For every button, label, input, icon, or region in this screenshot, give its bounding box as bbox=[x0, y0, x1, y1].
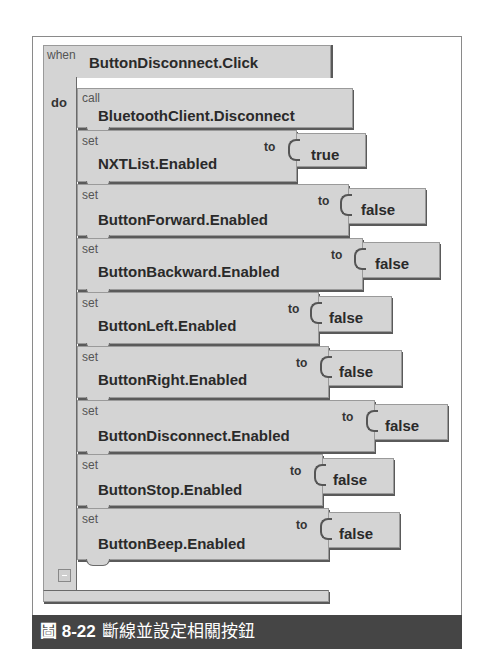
socket-plug-icon bbox=[340, 194, 352, 216]
to-label: to bbox=[331, 248, 342, 262]
when-label: when bbox=[47, 48, 76, 62]
call-block[interactable]: call BluetoothClient.Disconnect bbox=[77, 88, 353, 128]
value-block-false[interactable]: false bbox=[322, 458, 394, 494]
to-label: to bbox=[318, 194, 329, 208]
socket-plug-icon bbox=[314, 464, 326, 486]
call-method: BluetoothClient.Disconnect bbox=[98, 107, 295, 124]
set-label: set bbox=[82, 404, 98, 418]
event-block-header[interactable]: when ButtonDisconnect.Click bbox=[43, 45, 331, 78]
set-block-buttonbeep[interactable]: set ButtonBeep.Enabled to bbox=[77, 508, 329, 560]
value-text: false bbox=[361, 201, 395, 218]
figure-caption: 圖 8-22斷線並設定相關按鈕 bbox=[32, 615, 462, 649]
do-label: do bbox=[51, 95, 67, 110]
event-name: ButtonDisconnect.Click bbox=[89, 54, 258, 71]
to-label: to bbox=[290, 464, 301, 478]
property-name: ButtonBeep.Enabled bbox=[98, 535, 246, 552]
to-label: to bbox=[264, 140, 275, 154]
set-block-buttonforward[interactable]: set ButtonForward.Enabled to bbox=[77, 184, 349, 236]
caption-text: 斷線並設定相關按鈕 bbox=[102, 622, 255, 641]
socket-plug-icon bbox=[288, 139, 300, 161]
set-block-buttondisconnect[interactable]: set ButtonDisconnect.Enabled to bbox=[77, 400, 375, 452]
value-block-false[interactable]: false bbox=[328, 350, 402, 386]
to-label: to bbox=[342, 410, 353, 424]
event-block-body: do bbox=[43, 77, 77, 593]
set-label: set bbox=[82, 350, 98, 364]
value-text: false bbox=[385, 417, 419, 434]
collapse-button[interactable] bbox=[58, 569, 71, 582]
property-name: ButtonLeft.Enabled bbox=[98, 317, 236, 334]
call-label: call bbox=[82, 91, 100, 105]
set-label: set bbox=[82, 512, 98, 526]
set-block-buttonstop[interactable]: set ButtonStop.Enabled to bbox=[77, 454, 323, 506]
value-block-true[interactable]: true bbox=[296, 133, 366, 167]
socket-plug-icon bbox=[320, 356, 332, 378]
set-label: set bbox=[82, 188, 98, 202]
socket-plug-icon bbox=[354, 248, 366, 270]
figure-number: 圖 8-22 bbox=[40, 622, 96, 641]
socket-plug-icon bbox=[320, 518, 332, 540]
value-text: false bbox=[329, 309, 363, 326]
socket-plug-icon bbox=[366, 410, 378, 432]
property-name: ButtonStop.Enabled bbox=[98, 481, 242, 498]
set-block-buttonleft[interactable]: set ButtonLeft.Enabled to bbox=[77, 292, 319, 344]
property-name: NXTList.Enabled bbox=[98, 155, 217, 172]
value-block-false[interactable]: false bbox=[318, 296, 392, 332]
value-block-false[interactable]: false bbox=[362, 242, 440, 278]
set-label: set bbox=[82, 296, 98, 310]
set-block-nxtlist[interactable]: set NXTList.Enabled to bbox=[77, 130, 297, 182]
value-text: false bbox=[339, 363, 373, 380]
value-text: false bbox=[375, 255, 409, 272]
set-label: set bbox=[82, 134, 98, 148]
value-block-false[interactable]: false bbox=[328, 512, 400, 548]
value-text: false bbox=[339, 525, 373, 542]
to-label: to bbox=[288, 302, 299, 316]
value-text: true bbox=[311, 146, 339, 163]
event-block-footer bbox=[43, 590, 329, 602]
to-label: to bbox=[296, 356, 307, 370]
value-text: false bbox=[333, 471, 367, 488]
set-label: set bbox=[82, 242, 98, 256]
minus-icon bbox=[62, 575, 67, 576]
to-label: to bbox=[296, 518, 307, 532]
value-block-false[interactable]: false bbox=[374, 404, 448, 440]
property-name: ButtonBackward.Enabled bbox=[98, 263, 280, 280]
property-name: ButtonForward.Enabled bbox=[98, 211, 268, 228]
value-block-false[interactable]: false bbox=[348, 188, 426, 224]
property-name: ButtonRight.Enabled bbox=[98, 371, 247, 388]
set-label: set bbox=[82, 458, 98, 472]
block-notch bbox=[86, 559, 110, 566]
property-name: ButtonDisconnect.Enabled bbox=[98, 427, 290, 444]
socket-plug-icon bbox=[310, 302, 322, 324]
set-block-buttonbackward[interactable]: set ButtonBackward.Enabled to bbox=[77, 238, 363, 290]
set-block-buttonright[interactable]: set ButtonRight.Enabled to bbox=[77, 346, 329, 398]
